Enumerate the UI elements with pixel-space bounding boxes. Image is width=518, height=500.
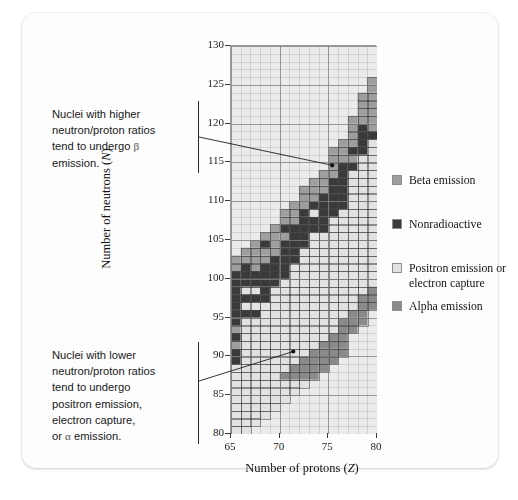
x-axis-label-text: Number of protons ( (245, 461, 347, 475)
y-tick-label: 105 (194, 232, 224, 244)
legend-item-positron: Positron emission or electron capture (392, 261, 518, 290)
y-tick-mark (225, 45, 230, 46)
annotation-upper-bar (198, 101, 199, 173)
annotation-lower-bar (198, 342, 199, 444)
y-tick-mark (225, 355, 230, 356)
figure-card: 80859095100105110115120125130 65707580 N… (22, 13, 498, 468)
y-tick-label: 110 (194, 193, 224, 205)
y-tick-label: 100 (194, 271, 224, 283)
annotation-line: electron capture, (52, 412, 192, 428)
y-tick-mark (225, 278, 230, 279)
y-tick-mark (225, 239, 230, 240)
x-tick-label: 75 (314, 440, 340, 452)
annotation-line: Nuclei with higher (52, 106, 192, 122)
y-tick-mark (225, 317, 230, 318)
annotation-line: neutron/proton ratios (52, 122, 192, 138)
annotation-line: neutron/proton ratios (52, 363, 192, 379)
x-tick-mark (230, 433, 231, 438)
legend-label: Alpha emission (409, 299, 483, 314)
x-tick-label: 70 (266, 440, 292, 452)
x-tick-mark (327, 433, 328, 438)
x-axis-label-close: ) (355, 461, 359, 475)
x-tick-mark (279, 433, 280, 438)
y-axis-label-text: Number of neutrons ( (99, 161, 113, 269)
legend-item-alpha: Alpha emission (392, 299, 518, 314)
legend-item-beta: Beta emission (392, 173, 518, 188)
x-axis-label: Number of protons (Z) (202, 461, 402, 476)
annotation-line: positron emission, (52, 396, 192, 412)
x-tick-label: 65 (217, 440, 243, 452)
annotation-lower: Nuclei with lowerneutron/proton ratioste… (52, 347, 192, 444)
y-tick-label: 130 (194, 38, 224, 50)
legend-swatch-stable-icon (392, 219, 402, 229)
legend-label: Positron emission or electron capture (409, 261, 518, 290)
annotation-line: Nuclei with lower (52, 347, 192, 363)
annotation-line: or α emission. (52, 428, 192, 444)
annotation-line: tend to undergo (52, 379, 192, 395)
legend-swatch-beta-icon (392, 175, 402, 185)
x-axis-symbol: Z (348, 461, 355, 475)
y-tick-mark (225, 161, 230, 162)
nuclide-grid-canvas (231, 46, 377, 434)
legend-item-stable: Nonradioactive (392, 217, 518, 232)
x-tick-label: 80 (363, 440, 389, 452)
legend-swatch-positron-icon (392, 263, 402, 273)
annotation-line: emission. (52, 155, 192, 171)
legend-swatch-alpha-icon (392, 301, 402, 311)
legend-label: Nonradioactive (409, 217, 482, 232)
legend-label: Beta emission (409, 173, 476, 188)
y-tick-label: 95 (194, 310, 224, 322)
x-tick-mark (376, 433, 377, 438)
y-tick-label: 125 (194, 77, 224, 89)
annotation-line: tend to undergo β (52, 138, 192, 154)
y-tick-mark (225, 394, 230, 395)
nuclide-chart-plot-area (230, 45, 376, 433)
annotation-upper: Nuclei with higherneutron/proton ratiost… (52, 106, 192, 171)
y-tick-mark (225, 123, 230, 124)
y-tick-mark (225, 200, 230, 201)
y-tick-mark (225, 84, 230, 85)
